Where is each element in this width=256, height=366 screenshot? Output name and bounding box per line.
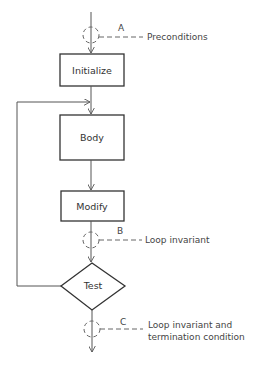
checkpoint-c-annotation-line2: termination condition — [148, 332, 245, 342]
loop-flowchart: A Preconditions Initialize Body Modify B… — [0, 0, 256, 366]
checkpoint-c-letter: C — [120, 317, 126, 327]
checkpoint-a-letter: A — [118, 23, 125, 33]
node-body-label: Body — [80, 132, 104, 143]
node-modify-label: Modify — [76, 201, 108, 212]
node-initialize-label: Initialize — [72, 65, 112, 76]
checkpoint-a-annotation: Preconditions — [147, 32, 208, 42]
node-test-label: Test — [83, 280, 103, 291]
checkpoint-b-letter: B — [117, 226, 123, 236]
checkpoint-b-annotation: Loop invariant — [145, 235, 210, 245]
node-modify: Modify — [61, 191, 124, 221]
node-initialize: Initialize — [60, 54, 124, 86]
checkpoint-c-annotation-line1: Loop invariant and — [148, 320, 232, 330]
node-body: Body — [60, 115, 124, 160]
node-test: Test — [61, 263, 125, 310]
